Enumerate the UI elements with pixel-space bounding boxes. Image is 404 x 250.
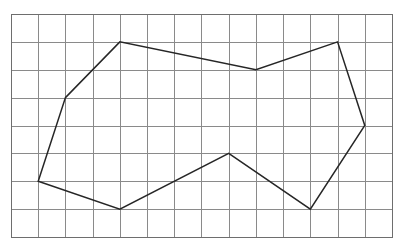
figure-container [0,0,404,250]
grid-polygon-figure [0,0,404,250]
